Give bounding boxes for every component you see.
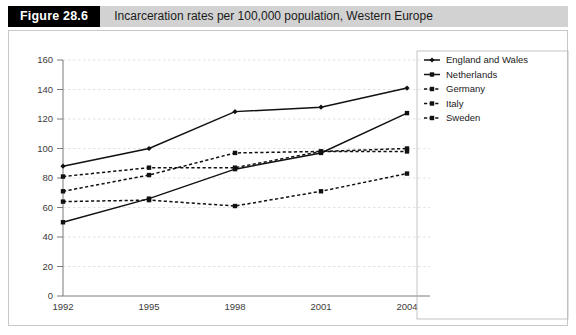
figure-title: Incarceration rates per 100,000 populati…: [100, 6, 568, 27]
figure-number-tag: Figure 28.6: [8, 6, 100, 27]
figure-container: Figure 28.6 Incarceration rates per 100,…: [0, 0, 576, 335]
figure-header: Figure 28.6 Incarceration rates per 100,…: [8, 6, 568, 27]
chart-frame: [8, 30, 568, 326]
